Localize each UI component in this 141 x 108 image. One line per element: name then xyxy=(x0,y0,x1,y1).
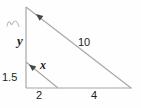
label-y: y xyxy=(15,33,23,48)
squiggle-mark-icon xyxy=(7,21,19,27)
geometry-figure: y 1.5 x 10 2 4 xyxy=(0,0,141,108)
label-x: x xyxy=(39,58,46,72)
label-2: 2 xyxy=(36,89,42,101)
label-1-5: 1.5 xyxy=(2,71,17,83)
label-10: 10 xyxy=(78,36,90,48)
label-4: 4 xyxy=(91,89,97,101)
triangle-diagram: y 1.5 x 10 2 4 xyxy=(0,0,141,108)
